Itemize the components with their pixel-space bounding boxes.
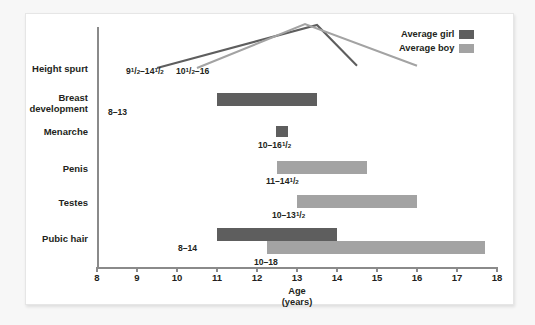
x-axis-title-main: Age bbox=[282, 286, 313, 297]
range-label-breast-development-girl: 8–13 bbox=[108, 107, 127, 117]
height-spurt-curves bbox=[0, 0, 535, 325]
bar-pubic-hair-girl bbox=[217, 228, 337, 241]
range-label-pubic-hair-girl: 8–14 bbox=[178, 243, 197, 253]
bar-breast-development-girl bbox=[217, 93, 317, 106]
range-label-testes-boy: 10–131/2 bbox=[272, 210, 305, 220]
bar-pubic-hair-boy bbox=[267, 241, 485, 254]
height-spurt-curve-boy bbox=[197, 24, 417, 68]
range-label-menarche-girl: 10–161/2 bbox=[258, 140, 291, 150]
x-axis-title: Age (years) bbox=[282, 286, 313, 308]
bar-menarche-girl bbox=[276, 126, 288, 137]
range-label-pubic-hair-boy: 10–18 bbox=[254, 257, 278, 267]
range-label-penis-boy: 11–141/2 bbox=[266, 176, 299, 186]
bar-penis-boy bbox=[277, 161, 367, 174]
x-axis-title-units: (years) bbox=[282, 297, 313, 308]
chart-plot-area: Average girl Average boy 891011121314151… bbox=[0, 0, 535, 325]
bar-testes-boy bbox=[297, 195, 417, 208]
height-spurt-label-boy: 101/2–16 bbox=[176, 66, 209, 76]
figure-background: Average girl Average boy 891011121314151… bbox=[0, 0, 535, 325]
height-spurt-label-girl: 91/2–141/2 bbox=[126, 66, 164, 76]
